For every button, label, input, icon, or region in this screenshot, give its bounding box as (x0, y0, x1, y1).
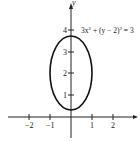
y-tick-label: 1 (63, 91, 67, 100)
y-tick-label: 4 (63, 26, 67, 35)
x-tick-label: 2 (111, 121, 115, 130)
y-axis-label: y (71, 0, 76, 7)
x-tick-label: −2 (25, 121, 34, 130)
y-tick-label: 2 (63, 69, 67, 78)
x-tick-label: 1 (90, 121, 94, 130)
x-tick-label: −1 (46, 121, 55, 130)
y-tick-label: 3 (63, 48, 67, 57)
x-axis-arrow-icon (133, 115, 138, 119)
ellipse-plot: y −2 −1 1 2 1 2 3 4 3x2 + (y − 2)2 = 3 (0, 0, 140, 141)
x-ticks: −2 −1 1 2 (25, 114, 115, 130)
equation-label: 3x2 + (y − 2)2 = 3 (81, 26, 134, 35)
